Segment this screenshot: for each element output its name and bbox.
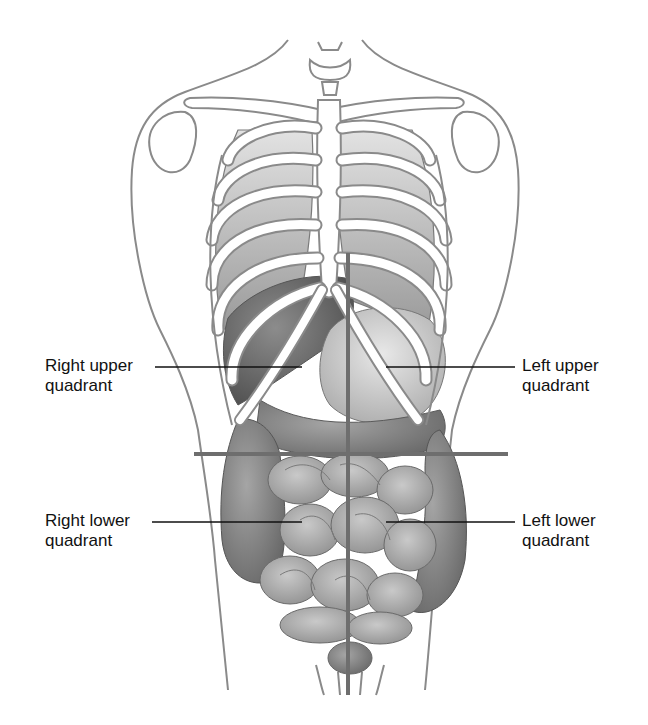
label-left-lower-line2: quadrant: [522, 531, 596, 551]
label-left-lower-quadrant: Left lower quadrant: [522, 511, 596, 551]
label-left-upper-quadrant: Left upper quadrant: [522, 356, 599, 396]
label-left-upper-line1: Left upper: [522, 356, 599, 376]
label-right-lower-line1: Right lower: [45, 511, 130, 531]
label-right-lower-line2: quadrant: [45, 531, 130, 551]
label-right-upper-line1: Right upper: [45, 356, 133, 376]
label-left-lower-line1: Left lower: [522, 511, 596, 531]
label-right-upper-line2: quadrant: [45, 376, 133, 396]
label-right-upper-quadrant: Right upper quadrant: [45, 356, 133, 396]
label-right-lower-quadrant: Right lower quadrant: [45, 511, 130, 551]
label-left-upper-line2: quadrant: [522, 376, 599, 396]
